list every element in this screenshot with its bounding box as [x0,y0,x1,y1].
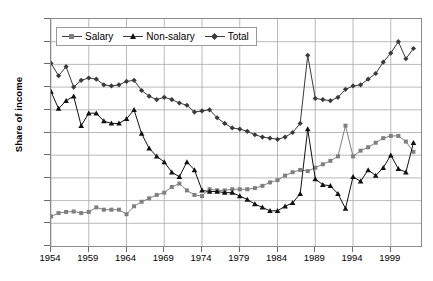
marker-total [230,125,235,130]
marker-non-salary [282,203,288,208]
marker-salary [291,170,295,174]
y-tick-mark [44,109,50,110]
marker-salary [381,136,385,140]
marker-total [86,75,91,80]
marker-non-salary [380,165,386,170]
y-axis-title: Share of income [13,55,24,175]
x-tick-mark [239,247,240,252]
y-tick-mark [44,86,50,87]
series-line-total [51,42,413,140]
marker-total [169,97,174,102]
marker-non-salary [365,167,371,172]
legend-item-total: Total [205,31,249,42]
marker-non-salary [343,206,349,211]
marker-non-salary [71,93,77,98]
legend-swatch-total [205,36,225,37]
marker-total [313,96,318,101]
y-tick-mark [44,41,50,42]
x-tick-mark [201,247,202,252]
marker-salary [268,180,272,184]
marker-salary [192,193,196,197]
marker-salary [351,154,355,158]
figure-caption [8,269,428,279]
marker-non-salary [305,126,311,131]
legend-swatch-salary [62,36,82,37]
y-tick-mark [44,18,50,19]
marker-non-salary [403,169,409,174]
marker-salary [238,187,242,191]
marker-total [177,100,182,105]
marker-salary [155,193,159,197]
marker-salary [374,141,378,145]
marker-total [162,95,167,100]
marker-total [282,134,287,139]
marker-non-salary [245,197,251,202]
legend-item-non-salary: Non-salary [123,31,194,42]
y-tick-mark [44,63,50,64]
y-tick-mark [44,222,50,223]
legend-label-non-salary: Non-salary [146,31,194,42]
y-tick-mark [44,177,50,178]
x-tick-mark [126,247,127,252]
chart-figure: Share of income 10.09.08.07.06.05.04.03.… [0,0,433,281]
marker-non-salary [78,123,84,128]
marker-non-salary [396,166,402,171]
marker-non-salary [260,205,266,210]
marker-salary [253,186,257,190]
marker-total [275,137,280,142]
marker-non-salary [177,174,183,179]
y-tick-mark [44,132,50,133]
marker-total [252,132,257,137]
marker-salary [389,134,393,138]
marker-salary [260,184,264,188]
marker-salary [298,168,302,172]
marker-salary [328,159,332,163]
marker-total [267,136,272,141]
marker-total [116,82,121,87]
marker-salary [87,210,91,214]
marker-salary [132,204,136,208]
marker-salary [102,208,106,212]
marker-total [154,97,159,102]
marker-salary [147,196,151,200]
marker-non-salary [411,140,417,145]
x-tick-mark [163,247,164,252]
y-tick-mark [44,154,50,155]
marker-salary [321,162,325,166]
legend-label-salary: Salary [85,31,113,42]
marker-non-salary [297,191,303,196]
marker-non-salary [199,188,205,193]
marker-total [328,98,333,103]
marker-non-salary [139,131,145,136]
marker-salary [177,182,181,186]
marker-salary [125,212,129,216]
legend-label-total: Total [228,31,249,42]
marker-salary [343,124,347,128]
y-tick-mark [44,200,50,201]
x-tick-label: 1999 [367,252,413,263]
marker-salary [276,178,280,182]
marker-total [199,108,204,113]
marker-salary [51,214,53,218]
marker-salary [185,188,189,192]
marker-salary [366,145,370,149]
marker-salary [283,174,287,178]
marker-non-salary [51,89,54,94]
marker-non-salary [252,201,258,206]
marker-salary [117,208,121,212]
marker-salary [359,149,363,153]
marker-salary [200,194,204,198]
chart-canvas [51,19,421,246]
marker-salary [64,210,68,214]
marker-non-salary [350,174,356,179]
marker-non-salary [312,176,318,181]
marker-non-salary [237,193,243,198]
marker-salary [404,140,408,144]
series-line-salary [51,126,413,217]
marker-total [260,134,265,139]
marker-salary [245,187,249,191]
marker-total [320,97,325,102]
y-tick-mark [44,245,50,246]
marker-total [124,79,129,84]
legend-item-salary: Salary [62,31,113,42]
